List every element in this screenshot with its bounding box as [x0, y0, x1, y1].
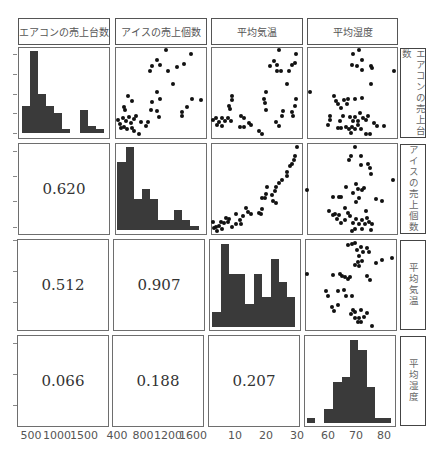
- xtick-label: 800: [133, 429, 154, 442]
- xtick-label: 20: [259, 429, 273, 442]
- xtick-label: 1200: [154, 429, 182, 442]
- xtick-label: 10: [228, 429, 242, 442]
- histogram-bars: [22, 51, 391, 423]
- xtick-label: 60: [321, 429, 335, 442]
- plot-graphics: [0, 0, 444, 461]
- xtick-label: 1000: [43, 429, 71, 442]
- xtick-label: 400: [107, 429, 128, 442]
- xtick-label: 1500: [70, 429, 98, 442]
- xtick-label: 500: [21, 429, 42, 442]
- xtick-label: 70: [349, 429, 363, 442]
- xtick-label: 80: [377, 429, 391, 442]
- xtick-label: 30: [290, 429, 304, 442]
- xtick-label: 1600: [179, 429, 207, 442]
